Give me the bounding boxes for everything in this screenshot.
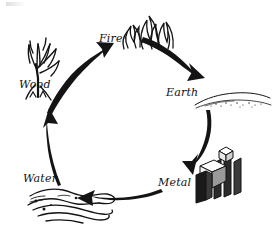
node-label-wood: Wood [19,79,51,90]
water-puddle-icon [28,189,115,223]
soil-speckles-icon [211,102,262,107]
edge-wood-to-fire [47,42,114,114]
metal-ingots-icon [196,147,241,203]
diagram-canvas: Wood Fire Earth Metal Water [0,0,277,238]
five-elements-cycle-illustration [0,0,277,238]
node-label-water: Water [23,173,57,184]
node-label-earth: Earth [166,87,198,98]
ground-soil-icon [195,93,271,108]
node-label-fire: Fire [99,33,123,44]
node-label-metal: Metal [158,177,191,188]
